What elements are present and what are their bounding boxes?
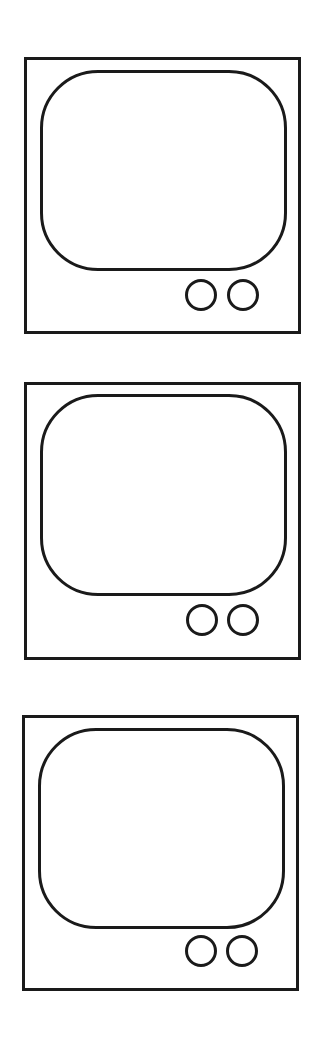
tv-knob-2b xyxy=(227,604,259,636)
tv-screen-2 xyxy=(40,394,287,596)
tv-knob-1b xyxy=(227,279,259,311)
tv-knob-3b xyxy=(226,935,258,967)
tv-knob-2a xyxy=(186,604,218,636)
tv-screen-1 xyxy=(40,70,287,271)
tv-knob-1a xyxy=(185,279,217,311)
tv-screen-3 xyxy=(38,728,285,929)
tv-knob-3a xyxy=(185,935,217,967)
